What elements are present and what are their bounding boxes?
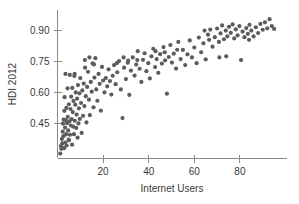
data-point [70, 143, 74, 147]
data-point [225, 34, 229, 38]
data-point [127, 93, 131, 97]
data-point [153, 49, 157, 53]
data-point [231, 22, 235, 26]
data-point [242, 35, 246, 39]
data-point [188, 38, 192, 42]
data-point [63, 72, 67, 76]
data-point [114, 82, 118, 86]
data-point [94, 87, 98, 91]
data-point [74, 90, 78, 94]
data-point [160, 61, 164, 65]
data-point [144, 69, 148, 73]
data-point [73, 72, 77, 76]
data-point [204, 57, 208, 61]
data-point [75, 97, 79, 101]
data-point [106, 67, 110, 71]
y-axis-title: HDI 2012 [7, 62, 18, 105]
data-point [175, 48, 179, 52]
data-point [272, 27, 276, 31]
data-point [261, 28, 265, 32]
data-point [115, 70, 119, 74]
data-point [105, 84, 109, 88]
data-point [67, 138, 71, 142]
data-point [82, 82, 86, 86]
data-point [68, 133, 72, 137]
data-point [263, 20, 267, 24]
data-point [199, 50, 203, 54]
data-point [241, 30, 245, 34]
data-point [95, 99, 99, 103]
data-point [66, 115, 70, 119]
data-point [85, 85, 89, 89]
data-point [237, 24, 241, 28]
data-point [206, 33, 210, 37]
data-point [158, 52, 162, 56]
data-point [69, 95, 73, 99]
data-point [82, 104, 86, 108]
data-point [120, 116, 124, 120]
data-point [149, 54, 153, 58]
x-tick-label: 40 [143, 166, 155, 177]
data-point [247, 23, 251, 27]
data-point [155, 57, 159, 61]
data-point [78, 76, 82, 80]
data-point [71, 99, 75, 103]
data-point [67, 102, 71, 106]
data-point [215, 26, 219, 30]
data-point [108, 79, 112, 83]
data-point [76, 83, 80, 87]
data-point [218, 31, 222, 35]
data-point [236, 33, 240, 37]
data-point [165, 92, 169, 96]
y-axis-ticks: 0.450.600.750.90 [30, 25, 61, 129]
x-axis-title: Internet Users [141, 183, 204, 194]
data-point [207, 38, 211, 42]
y-tick-label: 0.60 [30, 87, 50, 98]
data-point [247, 38, 251, 42]
data-point [232, 36, 236, 40]
data-point [190, 55, 194, 59]
data-point [129, 69, 133, 73]
data-point [104, 76, 108, 80]
data-point [79, 101, 83, 105]
data-point [208, 27, 212, 31]
y-tick-label: 0.90 [30, 25, 50, 36]
data-point [66, 128, 70, 132]
data-point [210, 45, 214, 49]
data-point [119, 87, 123, 91]
data-point [222, 37, 226, 41]
data-point [137, 67, 141, 71]
data-point [244, 26, 248, 30]
data-point [161, 45, 165, 49]
x-tick-label: 60 [189, 166, 201, 177]
data-point [63, 125, 67, 129]
data-point [156, 71, 160, 75]
data-point [96, 72, 100, 76]
data-point [76, 121, 80, 125]
data-point [185, 52, 189, 56]
data-point [246, 32, 250, 36]
data-point [73, 103, 77, 107]
data-point [168, 43, 172, 47]
data-point [64, 106, 68, 110]
data-point [234, 27, 238, 31]
data-point [192, 45, 196, 49]
data-point [80, 88, 84, 92]
data-point [92, 62, 96, 66]
data-point [213, 35, 217, 39]
y-tick-label: 0.45 [30, 118, 50, 129]
data-point [58, 151, 62, 155]
data-point [172, 52, 176, 56]
data-point [102, 90, 106, 94]
data-point [249, 28, 253, 32]
data-point [89, 80, 93, 84]
data-point [122, 66, 126, 70]
data-point [64, 132, 68, 136]
data-point [217, 55, 221, 59]
data-point [61, 122, 65, 126]
data-point [84, 120, 88, 124]
data-points-layer [58, 17, 276, 156]
data-point [267, 17, 271, 21]
data-point [93, 56, 97, 60]
data-point [75, 136, 79, 140]
